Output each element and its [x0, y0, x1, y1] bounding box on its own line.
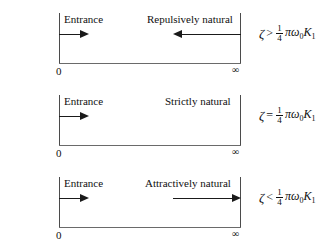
fraction-denominator: 4 — [276, 34, 283, 43]
formula-tail: πω0K1 — [285, 189, 316, 205]
regime-label: Attractively natural — [145, 177, 231, 190]
formula-k: K — [304, 107, 312, 121]
flow-arrow-right — [59, 194, 89, 203]
formula-fraction: 1 4 — [276, 106, 283, 125]
axis-start-label: 0 — [56, 65, 62, 77]
formula-k: K — [304, 25, 312, 39]
axis-end-tick — [240, 95, 241, 146]
formula-variable: ζ — [259, 190, 264, 206]
condition-formula: ζ = 1 4 πω0K1 — [259, 106, 316, 125]
regime-row-repulsively-natural: Entrance Repulsively natural 0 ∞ ζ > 1 4… — [0, 0, 333, 82]
arrow-head-left-icon — [173, 30, 182, 38]
flow-arrow-right — [59, 112, 89, 121]
formula-k: K — [304, 189, 312, 203]
formula-tail: πω0K1 — [285, 25, 316, 41]
formula-relation: < — [266, 190, 273, 205]
arrow-shaft — [59, 34, 82, 35]
axis-end-label: ∞ — [232, 228, 239, 240]
formula-variable: ζ — [259, 26, 264, 42]
arrow-head-right-icon — [80, 30, 89, 38]
formula-omega: ω — [291, 189, 299, 203]
arrow-shaft — [173, 198, 234, 199]
stability-regime-diagram: Entrance Repulsively natural 0 ∞ ζ > 1 4… — [0, 0, 333, 246]
fraction-numerator: 1 — [276, 106, 283, 115]
arrow-shaft — [180, 34, 241, 35]
regime-label: Strictly natural — [165, 95, 231, 108]
axis-end-label: ∞ — [232, 64, 239, 76]
fraction-numerator: 1 — [276, 188, 283, 197]
entrance-label: Entrance — [64, 13, 103, 26]
formula-variable: ζ — [259, 108, 264, 124]
formula-omega: ω — [291, 25, 299, 39]
fraction-denominator: 4 — [276, 198, 283, 207]
flow-arrow-right — [59, 30, 89, 39]
axis-baseline — [59, 145, 241, 146]
arrow-head-right-icon — [80, 194, 89, 202]
axis-baseline — [59, 63, 241, 64]
formula-k-subscript: 1 — [312, 33, 316, 42]
regime-label: Repulsively natural — [147, 13, 233, 26]
entrance-label: Entrance — [64, 177, 103, 190]
formula-tail: πω0K1 — [285, 107, 316, 123]
regime-row-attractively-natural: Entrance Attractively natural 0 ∞ ζ < 1 … — [0, 164, 333, 246]
arrow-shaft — [59, 198, 82, 199]
fraction-denominator: 4 — [276, 116, 283, 125]
formula-omega: ω — [291, 107, 299, 121]
axis-start-label: 0 — [56, 229, 62, 241]
regime-row-strictly-natural: Entrance Strictly natural 0 ∞ ζ = 1 4 πω… — [0, 82, 333, 164]
entrance-label: Entrance — [64, 95, 103, 108]
condition-formula: ζ < 1 4 πω0K1 — [259, 188, 316, 207]
formula-fraction: 1 4 — [276, 188, 283, 207]
formula-k-subscript: 1 — [312, 115, 316, 124]
arrow-shaft — [59, 116, 82, 117]
fraction-numerator: 1 — [276, 24, 283, 33]
condition-formula: ζ > 1 4 πω0K1 — [259, 24, 316, 43]
flow-arrow-left — [173, 30, 241, 39]
arrow-head-right-icon — [232, 194, 241, 202]
axis-start-label: 0 — [56, 147, 62, 159]
arrow-head-right-icon — [80, 112, 89, 120]
flow-arrow-right-secondary — [173, 194, 241, 203]
formula-fraction: 1 4 — [276, 24, 283, 43]
formula-relation: > — [266, 26, 273, 41]
formula-k-subscript: 1 — [312, 197, 316, 206]
formula-relation: = — [266, 108, 273, 123]
axis-baseline — [59, 227, 241, 228]
axis-end-label: ∞ — [232, 146, 239, 158]
